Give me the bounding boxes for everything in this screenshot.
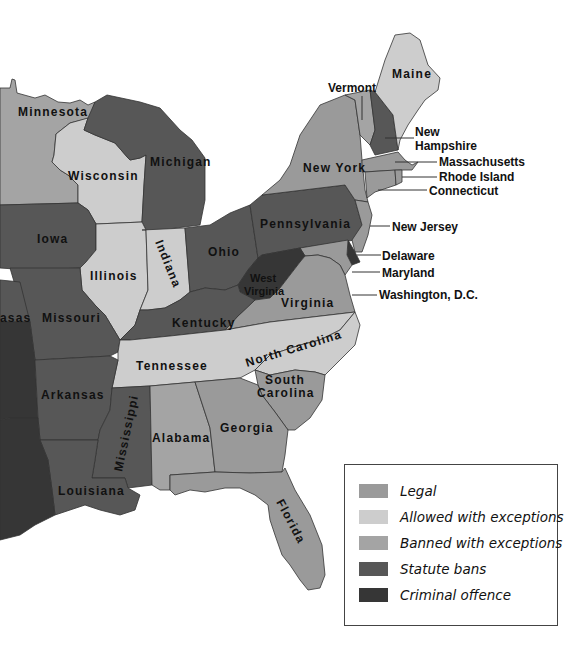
label-vermont: Vermont — [328, 81, 376, 95]
label-new-jersey: New Jersey — [392, 220, 458, 234]
label-washington-dc: Washington, D.C. — [379, 288, 478, 302]
legend-label: Legal — [400, 483, 436, 499]
legend-swatch-banned-exceptions — [359, 536, 388, 550]
label-south-carolina-1: South — [265, 373, 305, 387]
label-west-virginia-2: Virginia — [244, 285, 285, 297]
label-georgia: Georgia — [220, 421, 274, 435]
legend-swatch-criminal — [359, 588, 388, 602]
legend-item-banned-exceptions: Banned with exceptions — [359, 533, 562, 553]
label-massachusetts: Massachusetts — [439, 155, 525, 169]
legend-label: Banned with exceptions — [400, 535, 562, 551]
label-maine: Maine — [392, 67, 432, 81]
label-pennsylvania: Pennsylvania — [260, 217, 351, 231]
legend-swatch-statute — [359, 562, 388, 576]
label-new-hampshire-2: Hampshire — [415, 139, 477, 153]
label-minnesota: Minnesota — [18, 105, 88, 119]
label-rhode-island: Rhode Island — [439, 170, 514, 184]
state-oklahoma[interactable] — [0, 322, 38, 420]
label-south-carolina-2: Carolina — [257, 386, 315, 400]
label-kansas-partial: asas — [0, 311, 32, 325]
label-delaware: Delaware — [382, 249, 435, 263]
label-arkansas: Arkansas — [41, 388, 105, 402]
label-tennessee: Tennessee — [136, 359, 208, 373]
label-iowa: Iowa — [37, 232, 68, 246]
label-new-hampshire-1: New — [415, 125, 440, 139]
label-louisiana: Louisiana — [58, 484, 125, 498]
legend-item-legal: Legal — [359, 481, 436, 501]
label-connecticut: Connecticut — [429, 184, 498, 198]
legend-swatch-legal — [359, 484, 388, 498]
state-rhode-island[interactable] — [395, 170, 402, 185]
legend-label: Statute bans — [400, 561, 486, 577]
legend-label: Allowed with exceptions — [400, 509, 564, 525]
legend-label: Criminal offence — [400, 587, 511, 603]
label-virginia: Virginia — [281, 296, 334, 310]
label-alabama: Alabama — [152, 431, 210, 445]
label-kentucky: Kentucky — [172, 316, 236, 330]
state-connecticut[interactable] — [365, 170, 396, 198]
label-ohio: Ohio — [208, 245, 240, 259]
state-new-york[interactable] — [262, 95, 368, 202]
legend: Legal Allowed with exceptions Banned wit… — [344, 464, 558, 626]
label-maryland: Maryland — [382, 266, 435, 280]
label-michigan: Michigan — [150, 155, 212, 169]
label-west-virginia-1: West — [250, 272, 276, 284]
label-new-york: New York — [303, 161, 366, 175]
legend-item-criminal: Criminal offence — [359, 585, 511, 605]
legend-item-statute: Statute bans — [359, 559, 486, 579]
legend-item-allowed: Allowed with exceptions — [359, 507, 564, 527]
label-illinois: Illinois — [90, 269, 138, 283]
label-missouri: Missouri — [42, 311, 101, 325]
legend-swatch-allowed — [359, 510, 388, 524]
label-wisconsin: Wisconsin — [68, 169, 139, 183]
